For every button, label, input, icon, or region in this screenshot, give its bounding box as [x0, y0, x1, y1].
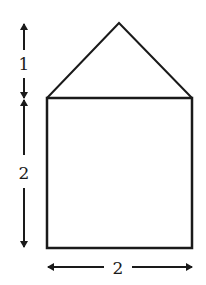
square-width-dimension: 2 — [48, 258, 192, 278]
square-height-label: 2 — [19, 163, 30, 183]
square-width-label: 2 — [113, 258, 124, 278]
square-height-dimension: 2 — [19, 100, 30, 247]
roof-height-dimension: 1 — [19, 24, 30, 98]
house-diagram: 1 2 2 — [0, 0, 206, 285]
roof-triangle — [47, 23, 192, 98]
square-body — [47, 98, 192, 248]
roof-height-label: 1 — [19, 54, 30, 74]
